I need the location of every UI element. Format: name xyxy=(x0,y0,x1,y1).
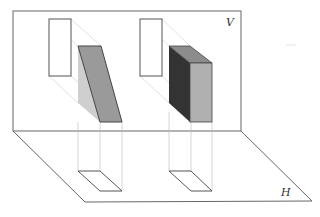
horizontal-plane xyxy=(13,131,312,202)
box-front-face xyxy=(190,63,212,122)
left-h-projection xyxy=(78,171,122,191)
right-v-projection xyxy=(140,19,162,76)
right-h-projection xyxy=(169,171,212,191)
v-plane-label: V xyxy=(226,16,235,29)
h-plane-label: H xyxy=(280,186,291,199)
rectangular-box xyxy=(169,46,212,122)
projection-diagram: V H xyxy=(0,0,320,217)
left-v-projection xyxy=(49,19,71,76)
inclined-prism xyxy=(78,46,122,122)
